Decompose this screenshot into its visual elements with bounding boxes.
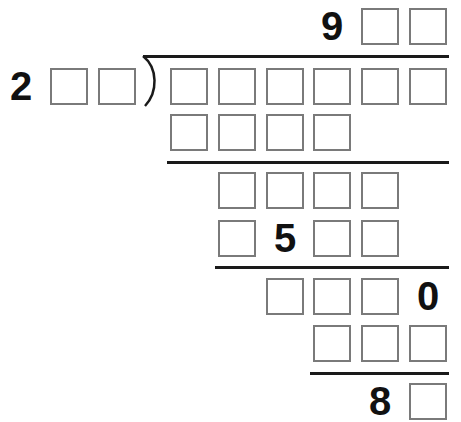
dividend-box-4[interactable] — [313, 68, 351, 105]
step2-box-2[interactable] — [266, 172, 304, 209]
step1-box-3[interactable] — [266, 114, 304, 151]
step4-box-1[interactable] — [266, 278, 304, 315]
division-bracket-icon — [140, 54, 162, 108]
dividend-box-5[interactable] — [361, 68, 399, 105]
subtraction-rule-3 — [310, 372, 449, 375]
step1-box-2[interactable] — [218, 114, 256, 151]
step3-box-1[interactable] — [218, 220, 256, 257]
quotient-box-3[interactable] — [409, 8, 447, 45]
remainder-digit-1: 8 — [361, 383, 399, 420]
step1-box-4[interactable] — [313, 114, 351, 151]
divisor-box-2[interactable] — [50, 68, 88, 105]
subtraction-rule-2 — [215, 266, 449, 269]
quotient-box-2[interactable] — [361, 8, 399, 45]
step1-box-1[interactable] — [170, 114, 208, 151]
dividend-box-6[interactable] — [409, 68, 447, 105]
quotient-digit-1: 9 — [313, 8, 351, 45]
step3-box-3[interactable] — [313, 220, 351, 257]
step5-box-3[interactable] — [409, 325, 447, 362]
dividend-box-1[interactable] — [170, 68, 208, 105]
dividend-box-2[interactable] — [218, 68, 256, 105]
step5-box-1[interactable] — [313, 325, 351, 362]
step2-box-4[interactable] — [361, 172, 399, 209]
step4-box-2[interactable] — [313, 278, 351, 315]
divisor-digit-1: 2 — [2, 68, 40, 105]
remainder-box-2[interactable] — [409, 383, 447, 420]
step3-box-4[interactable] — [361, 220, 399, 257]
dividend-box-3[interactable] — [266, 68, 304, 105]
step3-digit-2: 5 — [266, 220, 304, 257]
step5-box-2[interactable] — [361, 325, 399, 362]
division-bar — [143, 55, 449, 58]
step2-box-1[interactable] — [218, 172, 256, 209]
step4-box-3[interactable] — [361, 278, 399, 315]
step4-digit-4: 0 — [409, 278, 447, 315]
subtraction-rule-1 — [167, 161, 449, 164]
divisor-box-3[interactable] — [98, 68, 136, 105]
step2-box-3[interactable] — [313, 172, 351, 209]
